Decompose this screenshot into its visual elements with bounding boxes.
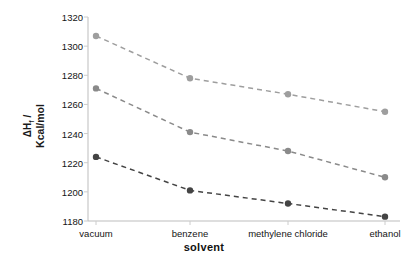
- series-line: [96, 36, 385, 112]
- x-tick-label: benzene: [172, 228, 208, 239]
- data-point-marker: [285, 200, 291, 206]
- chart-container: ΔHf / Kcal/mol 1180120012201240126012801…: [0, 0, 408, 260]
- data-series-group: [93, 33, 388, 220]
- data-point-marker: [382, 109, 388, 115]
- data-point-marker: [187, 187, 193, 193]
- series-line: [96, 157, 385, 217]
- x-tick-label: methylene chloride: [248, 228, 328, 239]
- x-tick-label: ethanol: [369, 228, 400, 239]
- series-line: [96, 88, 385, 177]
- data-point-marker: [187, 75, 193, 81]
- data-point-marker: [93, 33, 99, 39]
- axes: [84, 17, 400, 225]
- data-point-marker: [382, 213, 388, 219]
- data-point-marker: [285, 148, 291, 154]
- plot-area: [0, 0, 408, 260]
- data-point-marker: [382, 174, 388, 180]
- data-point-marker: [93, 154, 99, 160]
- x-axis-title: solvent: [0, 241, 408, 253]
- data-point-marker: [285, 91, 291, 97]
- data-point-marker: [93, 85, 99, 91]
- x-tick-label: vacuum: [79, 228, 112, 239]
- data-point-marker: [187, 129, 193, 135]
